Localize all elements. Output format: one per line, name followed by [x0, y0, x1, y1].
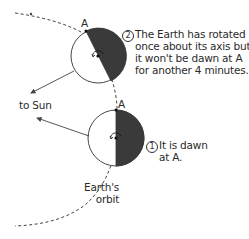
step-1-line-1: It is dawn [159, 139, 208, 151]
step-2-number-badge: 2 [122, 30, 134, 42]
to-sun-label: to Sun [19, 99, 52, 111]
step-2-caption: 2 The Earth has rotated once about its a… [122, 28, 249, 76]
step-1-caption: 1 It is dawn at A. [146, 139, 208, 163]
step-2-line-4: for another 4 minutes. [135, 64, 249, 76]
orbit-label-line1: Earth's [84, 181, 119, 193]
to-sun-arrow-lower [37, 118, 89, 136]
earth-position-2 [71, 28, 126, 83]
step-1-line-2: at A. [159, 151, 208, 163]
orbit-label-line2: orbit [84, 193, 119, 205]
axis-dot-upper [96, 54, 99, 57]
point-a-upper [85, 30, 88, 33]
night-side-lower [116, 110, 144, 166]
step-2-line-2: once about its axis but [135, 40, 249, 52]
point-a-upper-label: A [81, 17, 88, 29]
earth-position-1 [88, 109, 144, 167]
point-a-lower-label: A [118, 98, 125, 110]
step-2-line-3: it won't be dawn at A [135, 52, 249, 64]
to-sun-arrow-upper [31, 71, 74, 93]
step-1-number-badge: 1 [146, 141, 158, 153]
step-2-line-1: The Earth has rotated [135, 28, 249, 40]
orbit-start-dot [30, 13, 32, 15]
earths-orbit-label: Earth's orbit [84, 181, 119, 205]
axis-dot-lower [114, 136, 117, 139]
